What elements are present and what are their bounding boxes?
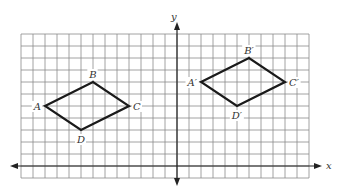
grid (21, 34, 309, 178)
y-axis-top-arrow (174, 22, 180, 30)
vertex-label-b-prime: B′ (243, 45, 254, 56)
coordinate-plane: x y ABCDA′B′C′D′ (0, 0, 345, 193)
y-axis-label: y (170, 11, 177, 22)
vertex-label-c: C (133, 101, 141, 112)
vertex-label-a: A (33, 101, 41, 112)
x-axis-right-arrow (314, 163, 322, 169)
vertex-label-d-prime: D′ (231, 110, 243, 121)
vertex-label-d: D (76, 134, 85, 145)
y-axis-bottom-arrow (174, 178, 180, 186)
vertex-label-c-prime: C′ (289, 77, 300, 88)
x-axis-label: x (326, 160, 332, 171)
x-axis-left-arrow (10, 163, 18, 169)
vertex-label-a-prime: A′ (187, 77, 198, 88)
figure-abcd: ABCD (32, 69, 142, 145)
vertex-label-b: B (88, 69, 96, 80)
figure-abcd-prime: A′B′C′D′ (186, 45, 301, 121)
